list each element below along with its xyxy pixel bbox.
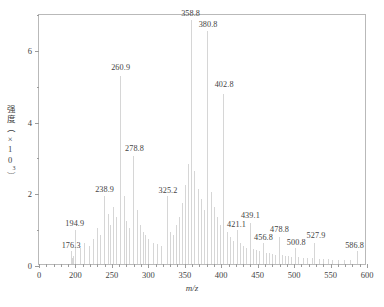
x-axis-tick	[112, 264, 113, 268]
x-axis-tick-minor	[83, 264, 84, 267]
peak-label: 238.9	[95, 185, 114, 194]
spectrum-peak	[133, 156, 134, 264]
spectrum-peak	[120, 76, 121, 264]
x-axis-tick-minor	[119, 264, 120, 267]
peak-label: 194.9	[65, 219, 84, 228]
peak-label: 500.8	[287, 238, 306, 247]
spectrum-peak-minor	[113, 207, 114, 264]
x-axis-tick	[294, 264, 295, 268]
spectrum-peak-minor	[100, 235, 101, 264]
x-axis-tick-minor	[338, 264, 339, 267]
peak-label: 260.9	[111, 63, 130, 72]
spectrum-peak	[167, 196, 168, 264]
x-axis-tick-minor	[345, 264, 346, 267]
x-axis-tick-label: 200	[69, 270, 82, 280]
y-axis-tick-minor	[37, 230, 40, 231]
spectrum-peak-minor	[194, 171, 195, 264]
spectrum-peak-minor	[266, 253, 267, 264]
spectrum-peak-minor	[298, 257, 299, 264]
x-axis-tick-minor	[141, 264, 142, 267]
spectrum-peak-minor	[161, 246, 162, 264]
x-axis-tick-minor	[360, 264, 361, 267]
x-axis-tick-minor	[199, 264, 200, 267]
spectrum-peak-minor	[230, 237, 231, 264]
peak-label: 586.8	[345, 241, 364, 250]
peak-label: 402.8	[215, 80, 234, 89]
y-axis-tick-label: 0	[28, 261, 32, 271]
spectrum-peak	[314, 243, 315, 265]
spectrum-peak-minor	[253, 249, 254, 264]
y-axis-tick-minor	[37, 87, 40, 88]
x-axis-tick	[367, 264, 368, 268]
spectrum-peak-minor	[275, 255, 276, 264]
spectrum-peak-minor	[170, 232, 171, 264]
x-axis-tick	[185, 264, 186, 268]
spectrum-peak-minor	[291, 257, 292, 264]
x-axis-tick-label: 450	[251, 270, 264, 280]
x-axis-tick-minor	[323, 264, 324, 267]
y-axis-tick-label: 6	[28, 46, 32, 56]
spectrum-peak	[279, 237, 280, 264]
spectrum-peak-minor	[185, 185, 186, 264]
spectrum-peak-minor	[108, 214, 109, 264]
x-axis-tick-minor	[352, 264, 353, 267]
spectrum-peak-minor	[204, 210, 205, 264]
spectrum-peak-minor	[227, 232, 228, 264]
x-axis-tick-minor	[287, 264, 288, 267]
spectrum-peak-minor	[148, 239, 149, 264]
peak-label: 176.3	[62, 241, 81, 250]
spectrum-peak-minor	[179, 217, 180, 264]
x-axis-tick-minor	[134, 264, 135, 267]
peak-label: 439.1	[241, 211, 260, 220]
x-axis-tick-minor	[301, 264, 302, 267]
spectrum-peak-minor	[319, 259, 320, 264]
plot-area: 0246 0200250300350400450500550600 176.31…	[38, 14, 366, 265]
spectrum-peak-minor	[126, 221, 127, 264]
y-axis-tick	[35, 194, 39, 195]
x-axis-tick-minor	[316, 264, 317, 267]
peak-label: 325.2	[159, 186, 178, 195]
x-axis-tick-minor	[68, 264, 69, 267]
x-axis-tick-label: 500	[288, 270, 301, 280]
y-axis-tick-label: 4	[28, 118, 32, 128]
x-axis-tick-minor	[170, 264, 171, 267]
y-axis-tick	[35, 51, 39, 52]
spectrum-peak	[207, 31, 208, 264]
spectrum-peak-minor	[243, 246, 244, 264]
peak-label: 380.8	[199, 20, 218, 29]
x-axis-tick-label: 0	[37, 270, 41, 280]
x-axis-tick	[148, 264, 149, 268]
x-axis-tick-minor	[97, 264, 98, 267]
spectrum-peak	[71, 251, 72, 264]
spectrum-peak-minor	[75, 253, 76, 264]
y-axis-title: 强度（×103）	[1, 105, 17, 181]
x-axis-tick-minor	[250, 264, 251, 267]
spectrum-peak-minor	[332, 260, 333, 264]
spectrum-peak-minor	[272, 254, 273, 264]
x-axis-tick	[75, 264, 76, 268]
spectrum-peak-minor	[157, 244, 158, 264]
x-axis-tick-minor	[90, 264, 91, 267]
spectrum-peak	[250, 223, 251, 264]
spectrum-peak-minor	[217, 217, 218, 264]
x-axis-tick-minor	[207, 264, 208, 267]
spectrum-peak-minor	[269, 253, 270, 264]
x-axis-tick	[331, 264, 332, 268]
x-axis-tick-minor	[192, 264, 193, 267]
spectrum-peak-minor	[214, 207, 215, 264]
spectrum-peak-minor	[80, 248, 81, 264]
spectrum-peak-minor	[124, 196, 125, 264]
spectrum-peak-minor	[137, 210, 138, 264]
spectrum-peak	[191, 20, 192, 264]
x-axis-tick-minor	[265, 264, 266, 267]
spectrum-peak-minor	[240, 243, 241, 265]
spectrum-peak	[223, 94, 224, 264]
spectrum-peak-minor	[259, 251, 260, 264]
x-axis-tick-minor	[280, 264, 281, 267]
spectrum-peak-minor	[285, 256, 286, 264]
spectrum-peak-minor	[182, 203, 183, 264]
spectrum-peak	[295, 248, 296, 264]
x-axis-tick-minor	[236, 264, 237, 267]
x-axis-tick-minor	[272, 264, 273, 267]
spectrum-peak-minor	[350, 260, 351, 264]
